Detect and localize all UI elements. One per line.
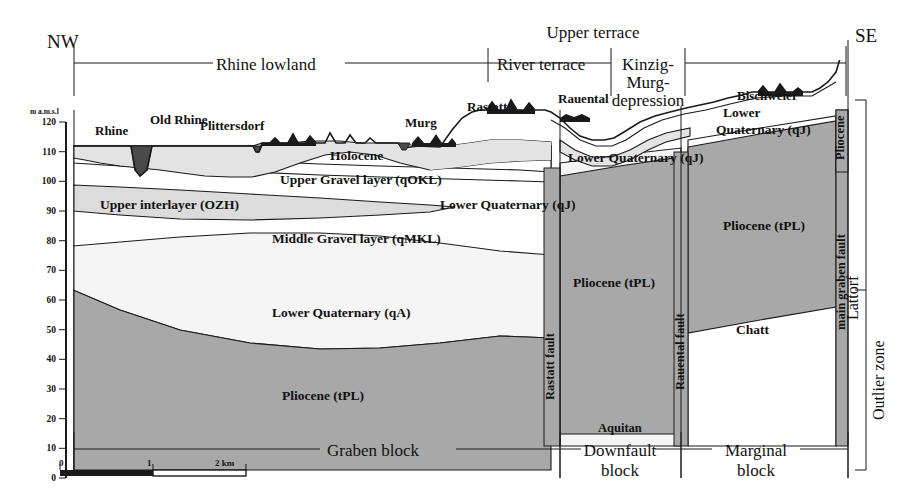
label-lower-right: Lower [723,105,761,120]
label-holocene: Holocene [330,148,383,163]
place-label-murg: Murg [405,115,437,130]
place-label-rastatt: Rastatt [467,99,508,114]
orientation-se: SE [855,25,877,46]
axis-tick-110: 110 [42,147,56,157]
place-label-rhine: Rhine [95,123,128,138]
label-upper-gravel: Upper Gravel layer (qOKL) [280,172,442,187]
top-zone-bracket [74,46,846,96]
scale-tick-1: 1 [147,458,152,468]
place-label-old-rhine: Old Rhine [150,112,208,127]
layer-pliocene-downfault [560,157,681,434]
label-lower-quaternary-qa: Lower Quaternary (qA) [272,305,410,320]
axis-tick-50: 50 [47,325,57,335]
scale-bar-segment-1 [60,470,153,476]
label-pliocene-right-edge: Pliocene [833,115,847,160]
axis-tick-80: 80 [47,236,57,246]
label-pliocene-downfault: Pliocene (tPL) [573,275,655,290]
block-label-marginal: Marginal [725,441,787,460]
axis-tick-90: 90 [47,206,57,216]
settlement-rauental-silhouette [560,114,590,122]
label-chatt: Chatt [736,322,770,337]
settlement-murg-silhouette [412,134,456,147]
fault-label-main-graben: main graben fault [834,233,848,330]
axis-tick-30: 30 [47,384,57,394]
place-label-bischweier: Bischweier [737,88,798,103]
label-outlier-zone: Outlier zone [870,340,887,420]
axis-tick-20: 20 [47,414,57,424]
cross-section-figure: NW SE Rhine lowland River terrace Upper … [0,0,905,501]
fault-label-rastatt: Rastatt fault [543,332,557,400]
fault-label-rauental: Rauental fault [673,312,687,390]
scale-tick-2km: 2 km [215,458,235,468]
label-lower-quaternary-qj-left: Lower Quaternary (qJ) [440,197,575,212]
place-label-plittersdorf: Plittersdorf [200,118,265,133]
zone-label-murg: Murg- [626,73,669,92]
zone-label-upper-terrace: Upper terrace [547,23,640,42]
elevation-axis: m a.m.s.l 120 110 100 90 80 70 60 50 40 … [30,107,66,483]
axis-tick-60: 60 [47,295,57,305]
label-pliocene-marginal: Pliocene (tPL) [723,218,805,233]
cross-section-svg: NW SE Rhine lowland River terrace Upper … [0,0,905,501]
axis-caption: m a.m.s.l [30,107,59,116]
axis-tick-100: 100 [42,176,57,186]
label-upper-interlayer: Upper interlayer (OZH) [100,197,239,212]
axis-tick-10: 10 [47,443,57,453]
zone-label-river-terrace: River terrace [497,55,585,74]
label-middle-gravel: Middle Gravel layer (qMKL) [272,231,441,246]
axis-tick-120: 120 [42,117,57,127]
zone-label-rhine-lowland: Rhine lowland [216,55,316,74]
axis-tick-70: 70 [47,265,57,275]
label-aquitan: Aquitan [598,421,642,435]
place-label-rauental: Rauental [558,91,609,106]
label-lower-quaternary-qj-mid: Lower Quaternary (qJ) [568,150,703,165]
axis-tick-0: 0 [51,473,56,483]
scale-bar-segment-2 [153,470,246,476]
block-label-downfault: Downfault [584,441,657,460]
zone-label-kinzig: Kinzig- [622,55,674,74]
label-quaternary-qj-right: Quaternary (qJ) [716,122,811,137]
axis-tick-40: 40 [47,354,57,364]
label-pliocene-graben: Pliocene (tPL) [282,388,364,403]
block-label-downfault-2: block [601,461,639,480]
block-label-marginal-2: block [737,461,775,480]
block-label-graben: Graben block [327,441,420,460]
zone-label-depression: depression [612,91,685,110]
